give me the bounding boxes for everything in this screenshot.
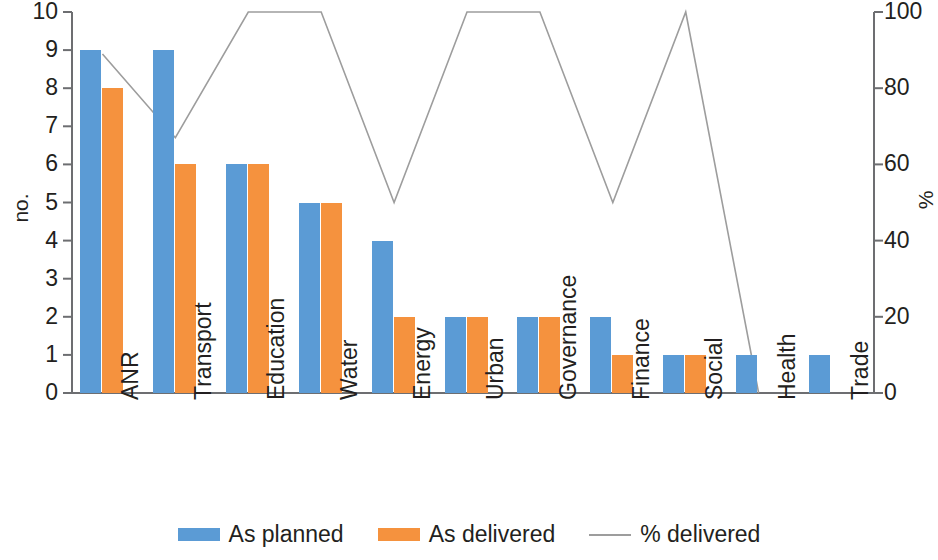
y-axis-left-tick: 0 xyxy=(18,381,58,404)
legend-label: As planned xyxy=(229,523,344,546)
y-axis-right-tick: 0 xyxy=(884,381,938,404)
bar-as-planned xyxy=(153,50,174,393)
y-axis-left-tick: 7 xyxy=(18,114,58,137)
x-axis-category-label: Finance xyxy=(630,318,653,400)
bar-group xyxy=(801,12,874,393)
chart-figure: no. % 012345678910 020406080100 ANRTrans… xyxy=(0,0,938,560)
bar-group xyxy=(437,12,510,393)
y-axis-right-tick: 40 xyxy=(884,229,938,252)
y-axis-left-tick: 5 xyxy=(18,191,58,214)
chart-legend: As plannedAs delivered% delivered xyxy=(0,523,938,546)
x-axis-category-label: ANR xyxy=(119,351,142,400)
bar-group xyxy=(291,12,364,393)
bar-as-planned xyxy=(517,317,538,393)
y-axis-right-tick: 100 xyxy=(884,0,938,23)
bar-group xyxy=(72,12,145,393)
legend-label: % delivered xyxy=(640,523,760,546)
y-axis-left-tick-labels: 012345678910 xyxy=(8,0,58,560)
y-axis-left-tick: 9 xyxy=(18,38,58,61)
x-axis-category-label: Transport xyxy=(192,302,215,400)
bar-as-planned xyxy=(663,355,684,393)
x-axis-category-label: Social xyxy=(703,337,726,400)
bar-as-planned xyxy=(226,164,247,393)
bar-as-planned xyxy=(372,241,393,393)
y-axis-right-tick: 60 xyxy=(884,152,938,175)
bar-as-delivered xyxy=(102,88,123,393)
legend-label: As delivered xyxy=(429,523,556,546)
x-axis-category-label: Water xyxy=(338,340,361,401)
bar-as-planned xyxy=(445,317,466,393)
legend-color-swatch-icon xyxy=(178,528,220,541)
y-axis-right-tick-labels: 020406080100 xyxy=(884,0,938,560)
y-axis-right-tick: 80 xyxy=(884,76,938,99)
bar-group xyxy=(655,12,728,393)
bar-as-planned xyxy=(590,317,611,393)
bar-as-planned xyxy=(299,203,320,394)
y-axis-left-tick: 6 xyxy=(18,152,58,175)
y-axis-left-tick: 10 xyxy=(18,0,58,23)
y-axis-right-tick: 20 xyxy=(884,305,938,328)
x-axis-category-label: Education xyxy=(265,298,288,400)
x-axis-category-label: Energy xyxy=(411,327,434,400)
x-axis-category-label: Urban xyxy=(484,337,507,400)
y-axis-left-tick: 8 xyxy=(18,76,58,99)
x-axis-category-label: Trade xyxy=(849,341,872,400)
bar-as-planned xyxy=(736,355,757,393)
bar-as-planned xyxy=(809,355,830,393)
y-axis-left-tick: 4 xyxy=(18,229,58,252)
legend-item[interactable]: As delivered xyxy=(378,523,556,546)
legend-item[interactable]: As planned xyxy=(178,523,344,546)
y-axis-left-tick: 1 xyxy=(18,343,58,366)
x-axis-category-label: Health xyxy=(776,334,799,400)
x-axis-category-label: Governance xyxy=(557,275,580,400)
legend-item[interactable]: % delivered xyxy=(589,523,760,546)
y-axis-left-tick: 2 xyxy=(18,305,58,328)
y-axis-left-tick: 3 xyxy=(18,267,58,290)
legend-line-swatch-icon xyxy=(589,528,631,541)
legend-color-swatch-icon xyxy=(378,528,420,541)
bar-as-planned xyxy=(80,50,101,393)
